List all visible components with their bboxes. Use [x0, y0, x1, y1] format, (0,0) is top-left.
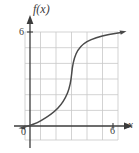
y-axis-label: f(x): [33, 3, 50, 15]
x-axis-label: x: [128, 119, 133, 130]
y-axis: [27, 15, 34, 148]
graph-figure: f(x) x 6 6 0: [0, 0, 139, 153]
function-curve: [19, 31, 127, 130]
x-tick-label-6: 6: [110, 126, 115, 136]
origin-label: 0: [21, 127, 26, 137]
curve-end-arrowhead: [120, 31, 127, 35]
y-tick-label-6: 6: [19, 27, 24, 37]
y-axis-arrowhead: [27, 15, 34, 24]
grid-lines: [25, 32, 118, 140]
x-axis: [14, 123, 133, 130]
